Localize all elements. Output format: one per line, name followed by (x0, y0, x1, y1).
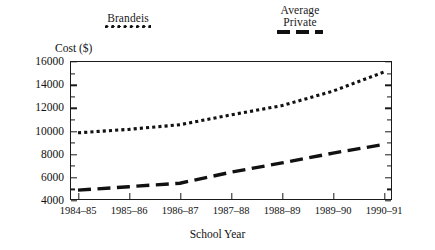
x-axis-tick (333, 193, 334, 199)
x-axis-tick (231, 193, 232, 199)
y-axis-major-tick-right (385, 177, 391, 178)
x-axis-tick (180, 193, 181, 199)
y-axis-major-tick-right (385, 61, 391, 62)
x-axis-tick (384, 193, 385, 199)
y-axis-tick-label: 8000 (6, 148, 64, 160)
y-axis-minor-tick (71, 142, 75, 143)
legend-label-brandeis: Brandeis (88, 12, 168, 24)
y-axis-minor-tick-right (387, 119, 391, 120)
y-axis-major-tick (71, 84, 77, 85)
y-axis-tick-label: 6000 (6, 171, 64, 183)
y-axis-major-tick (71, 61, 77, 62)
y-axis-major-tick (71, 154, 77, 155)
dotted-line-swatch-icon (105, 25, 151, 29)
y-axis-major-tick (71, 108, 77, 109)
y-axis-minor-tick-right (387, 189, 391, 190)
y-axis-major-tick-right (385, 200, 391, 201)
y-axis-minor-tick (71, 96, 75, 97)
y-axis-tick-label: 12000 (6, 101, 64, 113)
dashed-line-swatch-icon (277, 30, 323, 34)
plot-area (70, 61, 392, 200)
y-axis-minor-tick-right (387, 166, 391, 167)
y-axis-tick-label: 10000 (6, 125, 64, 137)
y-axis-tick-label: 14000 (6, 78, 64, 90)
x-axis-tick (129, 193, 130, 199)
y-axis-minor-tick (71, 166, 75, 167)
y-axis-major-tick-right (385, 108, 391, 109)
y-axis-minor-tick-right (387, 142, 391, 143)
x-axis-tick-label: 1990–91 (349, 205, 419, 216)
y-axis-major-tick (71, 200, 77, 201)
y-axis-tick-label: 16000 (6, 55, 64, 67)
y-axis-major-tick-right (385, 154, 391, 155)
legend-entry-brandeis: Brandeis (88, 12, 168, 29)
y-axis-minor-tick-right (387, 73, 391, 74)
x-axis-tick (78, 193, 79, 199)
y-axis-minor-tick (71, 189, 75, 190)
chart-figure: Brandeis Average Private Cost ($) School… (0, 0, 435, 250)
y-axis-minor-tick-right (387, 96, 391, 97)
y-axis-major-tick-right (385, 84, 391, 85)
y-axis-major-tick-right (385, 131, 391, 132)
legend-entry-average-private: Average Private (260, 4, 340, 34)
y-axis-major-tick (71, 177, 77, 178)
y-axis-minor-tick (71, 119, 75, 120)
legend-label-average-private: Average Private (260, 4, 340, 29)
y-axis-minor-tick (71, 73, 75, 74)
x-axis-tick (282, 193, 283, 199)
x-axis-title: School Year (0, 228, 435, 240)
y-axis-major-tick (71, 131, 77, 132)
y-axis-title: Cost ($) (55, 42, 92, 54)
